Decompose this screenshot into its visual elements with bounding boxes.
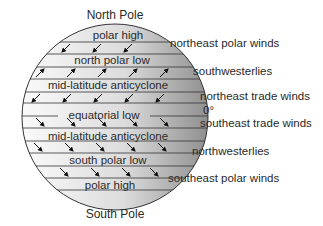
wind-label-northwesterlies: northwesterlies (192, 146, 269, 158)
band-south-polar-low: south polar low (69, 155, 146, 167)
wind-label-northeast-trade: northeast trade winds (200, 91, 310, 103)
band-mid-latitude-anticyclone-north: mid-latitude anticyclone (48, 80, 168, 92)
band-equatorial-low: equatorial low (69, 110, 140, 122)
band-north-polar-low: north polar low (74, 55, 149, 67)
wind-label-southeast-trade: southeast trade winds (200, 118, 312, 130)
band-mid-latitude-anticyclone-south: mid-latitude anticyclone (48, 131, 168, 143)
north-pole-label: North Pole (87, 9, 144, 21)
equator-label: 0° (203, 105, 214, 117)
south-pole-label: South Pole (86, 208, 145, 220)
band-polar-high-north: polar high (93, 30, 144, 42)
wind-label-southeast-polar: southeast polar winds (168, 173, 279, 185)
wind-label-southwesterlies: southwesterlies (193, 66, 272, 78)
wind-label-northeast-polar: northeast polar winds (170, 38, 279, 50)
globe-diagram (0, 0, 323, 226)
band-polar-high-south: polar high (85, 180, 136, 192)
